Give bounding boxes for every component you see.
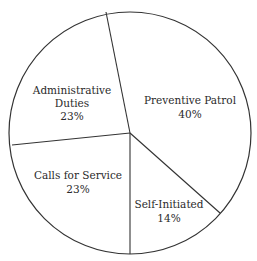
svg-text:40%: 40% bbox=[178, 108, 201, 120]
svg-text:23%: 23% bbox=[60, 110, 83, 122]
svg-text:Preventive Patrol: Preventive Patrol bbox=[144, 94, 237, 106]
svg-text:14%: 14% bbox=[157, 212, 180, 224]
svg-text:Calls for Service: Calls for Service bbox=[34, 169, 122, 181]
pie-chart: Preventive Patrol 40% Self-Initiated 14%… bbox=[0, 0, 257, 261]
svg-text:Duties: Duties bbox=[55, 97, 89, 109]
svg-text:23%: 23% bbox=[66, 183, 89, 195]
svg-text:Self-Initiated: Self-Initiated bbox=[134, 198, 203, 210]
svg-text:Administrative: Administrative bbox=[32, 84, 111, 96]
